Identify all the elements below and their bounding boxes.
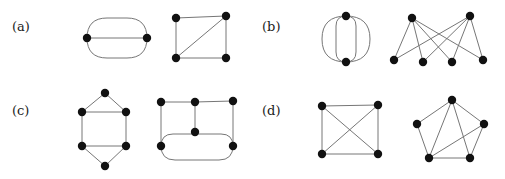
graph-vertex (101, 162, 109, 170)
graph-edge (105, 93, 126, 112)
graph-d-2 (412, 94, 492, 168)
panel-label: (a) (12, 20, 30, 33)
graph-vertex (229, 97, 237, 105)
graph-edge (452, 16, 470, 62)
graph-b-1 (318, 8, 374, 70)
graph-vertex (413, 120, 421, 128)
graph-vertex (448, 96, 456, 104)
panel-label: (d) (262, 104, 280, 117)
graph-vertex (390, 56, 398, 64)
graph-edge (87, 38, 147, 58)
graph-vertex (229, 142, 237, 150)
graph-c-2 (155, 96, 245, 166)
graph-vertex (318, 102, 326, 110)
graph-edge (176, 16, 226, 18)
graph-vertex (122, 108, 130, 116)
graph-vertex (157, 98, 165, 106)
graph-vertex (83, 34, 91, 42)
graph-edge (470, 124, 484, 158)
graph-vertex (318, 150, 326, 158)
graph-d-1 (316, 98, 386, 164)
graph-vertex (172, 54, 180, 62)
graph-vertex (480, 120, 488, 128)
graph-edge (429, 100, 452, 158)
graph-edge (346, 16, 370, 62)
graph-vertex (222, 54, 230, 62)
graph-vertex (157, 142, 165, 150)
graph-edge (82, 93, 105, 112)
graph-vertex (479, 56, 487, 64)
graph-a-2 (168, 10, 234, 66)
graph-edge (176, 16, 226, 58)
graph-edge (87, 18, 147, 38)
graph-vertex (122, 142, 130, 150)
graph-vertex (342, 58, 350, 66)
graph-edge (417, 124, 429, 158)
graph-vertex (419, 58, 427, 66)
graph-vertex (466, 154, 474, 162)
graph-edge (452, 100, 484, 124)
graph-figure: (a)(b)(c)(d) (0, 0, 505, 179)
graph-edge (105, 146, 126, 166)
graph-edge (322, 16, 346, 62)
graph-edge (452, 100, 470, 158)
graph-vertex (466, 12, 474, 20)
panel-label: (b) (262, 20, 280, 33)
graph-vertex (101, 89, 109, 97)
graph-b-2 (390, 10, 490, 68)
graph-edge (336, 16, 346, 62)
graph-edge (394, 18, 412, 60)
graph-vertex (172, 14, 180, 22)
graph-vertex (342, 12, 350, 20)
graph-c-1 (74, 88, 134, 172)
graph-edge (195, 101, 233, 102)
graph-edge (429, 124, 484, 158)
graph-vertex (408, 14, 416, 22)
graph-vertex (78, 108, 86, 116)
graph-vertex (143, 34, 151, 42)
graph-vertex (222, 12, 230, 20)
graph-vertex (374, 101, 382, 109)
graph-vertex (425, 154, 433, 162)
graph-edge (161, 146, 233, 160)
graph-edge (161, 134, 233, 146)
graph-edge (322, 105, 378, 106)
graph-vertex (78, 142, 86, 150)
graph-edge (346, 16, 356, 62)
graph-vertex (374, 150, 382, 158)
graph-vertex (191, 128, 199, 136)
graph-edge (82, 146, 105, 166)
panel-label: (c) (12, 104, 29, 117)
graph-vertex (448, 58, 456, 66)
graph-a-1 (75, 10, 159, 66)
graph-vertex (191, 98, 199, 106)
